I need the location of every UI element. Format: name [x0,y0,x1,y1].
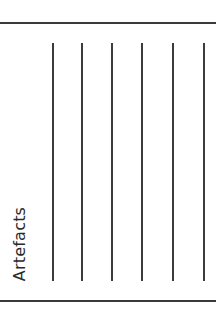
writing-line-2 [81,43,83,281]
writing-line-4 [141,43,143,281]
top-border-rule [0,22,216,24]
writing-line-5 [172,43,174,281]
section-label-artefacts: Artefacts [10,207,29,281]
writing-line-1 [52,43,54,281]
writing-line-6 [203,43,205,281]
bottom-border-rule [0,300,216,302]
writing-line-3 [111,43,113,281]
